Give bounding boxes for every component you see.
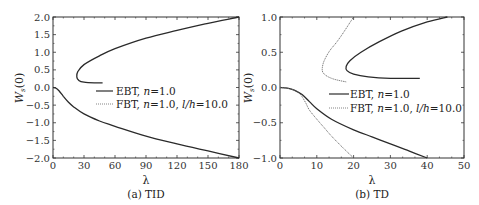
y-tick-label: 0.0 xyxy=(261,82,277,93)
x-tick-label: 30 xyxy=(384,160,397,171)
y-tick-label: 2.0 xyxy=(34,12,50,23)
y-tick-label: −1.5 xyxy=(26,135,50,146)
y-tick-label: −0.5 xyxy=(26,100,50,111)
y-tick-label: −0.5 xyxy=(253,117,277,128)
legend-label-fbt: FBT, n=1.0, l/h=10.0 xyxy=(116,98,228,110)
x-tick-label: 120 xyxy=(167,160,186,171)
x-tick-label: 180 xyxy=(229,160,248,171)
y-tick-label: 0.5 xyxy=(34,64,50,75)
y-tick-label: 1.5 xyxy=(34,29,50,40)
legend: EBT, n=1.0 FBT, n=1.0, l/h=10.0 xyxy=(96,85,228,110)
y-tick-label: −1.0 xyxy=(253,153,277,164)
caption: (a) TID xyxy=(127,188,164,200)
legend-label-ebt: EBT, n=1.0 xyxy=(350,88,410,100)
x-tick-label: 30 xyxy=(78,160,91,171)
y-tick-label: 0.0 xyxy=(34,82,50,93)
x-tick-label: 40 xyxy=(421,160,434,171)
legend: EBT, n=1.0 FBT, n=1.0, l/h=10.0 xyxy=(329,88,462,114)
fbt-curve xyxy=(280,88,354,159)
legend-label-fbt: FBT, n=1.0, l/h=10.0 xyxy=(350,102,462,114)
x-tick-label: 10 xyxy=(310,160,323,171)
y-tick-label: −2.0 xyxy=(26,153,50,164)
x-tick-label: 0 xyxy=(50,160,56,171)
y-tick-label: 1.0 xyxy=(261,12,277,23)
x-tick-label: 20 xyxy=(347,160,360,171)
x-tick-label: 90 xyxy=(140,160,153,171)
x-tick-label: 50 xyxy=(458,160,471,171)
x-tick-label: 60 xyxy=(109,160,122,171)
y-axis-label: Ws(0) xyxy=(13,73,27,104)
chart-panel-b: 01020304050 1.00.50.0−0.5−1.0 EBT, n=1.0… xyxy=(242,12,470,201)
x-axis-label: λ xyxy=(143,174,150,187)
x-axis-label: λ xyxy=(369,174,376,187)
ebt-curve xyxy=(77,17,239,83)
figure: 0306090120150180 2.01.51.00.50.0−0.5−1.0… xyxy=(0,0,479,205)
y-axis-label: Ws(0) xyxy=(242,73,256,104)
caption: (b) TD xyxy=(355,188,389,200)
y-tick-label: −1.0 xyxy=(26,117,50,128)
x-tick-label: 150 xyxy=(198,160,217,171)
chart-panel-a: 0306090120150180 2.01.51.00.50.0−0.5−1.0… xyxy=(13,12,249,201)
ebt-curve xyxy=(346,17,448,78)
y-tick-label: 1.0 xyxy=(34,47,50,58)
legend-label-ebt: EBT, n=1.0 xyxy=(116,85,176,97)
x-tick-label: 0 xyxy=(277,160,283,171)
y-tick-label: 0.5 xyxy=(261,47,277,58)
